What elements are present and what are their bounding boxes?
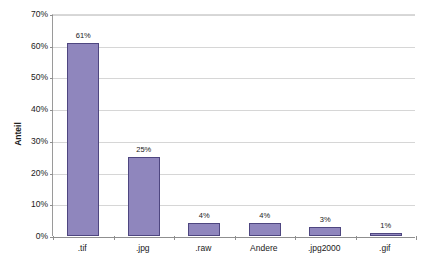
y-tick-label: 50% — [12, 72, 48, 82]
x-axis-label: .tif — [78, 243, 87, 253]
bar[interactable] — [249, 223, 281, 236]
x-axis-label: .jpg — [136, 243, 150, 253]
bar-slot: 4% — [235, 15, 296, 236]
bar-value-label: 1% — [380, 221, 391, 230]
x-axis-label: .raw — [195, 243, 211, 253]
chart-title: Dateiformat — [8, 0, 57, 2]
y-tick-label: 40% — [12, 104, 48, 114]
x-axis-label: Andere — [250, 243, 277, 253]
x-axis-label: .gif — [379, 243, 390, 253]
plot-area: 61%25%4%4%3%1% — [52, 14, 415, 236]
bar-value-label: 3% — [320, 215, 331, 224]
x-tick-mark — [114, 236, 115, 240]
x-tick-mark — [416, 236, 417, 240]
x-tick-mark — [174, 236, 175, 240]
x-axis-label: .jpg2000 — [308, 243, 341, 253]
y-tick-label: 30% — [12, 136, 48, 146]
y-tick-label: 0% — [12, 231, 48, 241]
y-tick-label: 60% — [12, 41, 48, 51]
x-tick-mark — [295, 236, 296, 240]
bar[interactable] — [128, 157, 160, 236]
bar-chart: Dateiformat Anteil 0%10%20%30%40%50%60%7… — [0, 0, 424, 267]
bar-slot: 4% — [174, 15, 235, 236]
bar[interactable] — [309, 227, 341, 237]
bar-slot: 25% — [114, 15, 175, 236]
y-tick-label: 70% — [12, 9, 48, 19]
x-tick-mark — [53, 236, 54, 240]
x-tick-mark — [235, 236, 236, 240]
bar-value-label: 61% — [76, 31, 91, 40]
bar-slot: 3% — [295, 15, 356, 236]
bar-value-label: 25% — [136, 145, 151, 154]
y-tick-label: 20% — [12, 168, 48, 178]
bar-value-label: 4% — [199, 211, 210, 220]
bar-value-label: 4% — [259, 211, 270, 220]
bar[interactable] — [67, 43, 99, 236]
bar[interactable] — [188, 223, 220, 236]
bar[interactable] — [370, 233, 402, 236]
y-tick-label: 10% — [12, 199, 48, 209]
bar-slot: 61% — [53, 15, 114, 236]
bar-slot: 1% — [356, 15, 417, 236]
x-tick-mark — [356, 236, 357, 240]
